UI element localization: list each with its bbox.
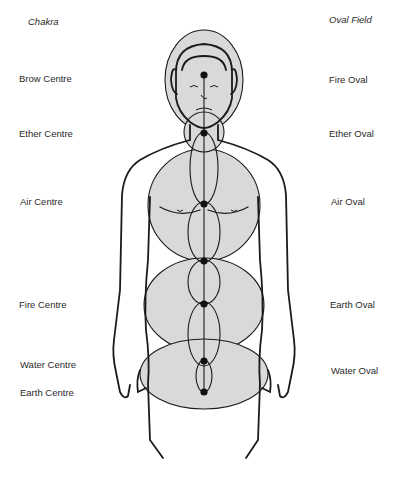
air-centre-dot — [200, 200, 207, 207]
earth-centre-dot — [200, 388, 207, 395]
mid-centre-dot — [200, 257, 207, 264]
water-centre-dot — [200, 357, 207, 364]
fire-centre-dot — [200, 300, 207, 307]
ether-centre-dot — [200, 129, 207, 136]
chakra-figure-diagram — [0, 0, 404, 484]
brow-centre-dot — [200, 71, 207, 78]
